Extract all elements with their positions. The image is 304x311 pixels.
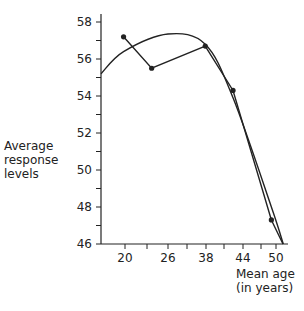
x-axis-label-line: Mean age <box>236 267 295 281</box>
y-tick-label: 54 <box>77 89 92 103</box>
x-tick-label: 44 <box>235 251 250 265</box>
y-tick-label: 46 <box>77 237 92 251</box>
y-axis-label-line: response <box>4 153 59 167</box>
data-point-marker <box>149 66 154 71</box>
y-axis-label: Average response levels <box>4 139 59 181</box>
y-tick-label: 56 <box>77 52 92 66</box>
x-tick-label: 26 <box>160 251 175 265</box>
y-tick-label: 52 <box>77 126 92 140</box>
fitted-curve <box>101 34 283 244</box>
x-axis-label: Mean age (in years) <box>236 267 295 295</box>
data-point-marker <box>230 88 235 93</box>
x-axis-label-line: (in years) <box>236 281 295 295</box>
y-axis-label-line: levels <box>4 167 59 181</box>
data-point-marker <box>269 217 274 222</box>
y-axis-label-line: Average <box>4 139 59 153</box>
data-point-marker <box>203 43 208 48</box>
x-tick-label: 50 <box>268 251 283 265</box>
data-point-marker <box>121 34 126 39</box>
x-tick-label: 38 <box>198 251 213 265</box>
y-tick-label: 50 <box>77 163 92 177</box>
x-tick-label: 20 <box>117 251 132 265</box>
y-tick-label: 48 <box>77 200 92 214</box>
observed-line <box>124 37 283 244</box>
y-tick-label: 58 <box>77 15 92 29</box>
